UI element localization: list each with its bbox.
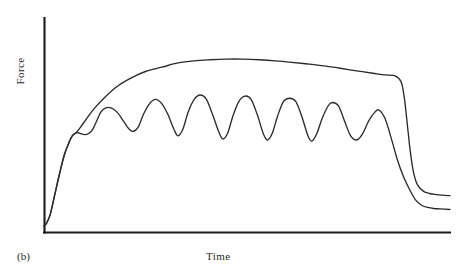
panel-label: (b) <box>17 250 30 262</box>
data-traces <box>44 59 450 226</box>
trace-fused-tetanus <box>44 59 450 226</box>
x-axis-label: Time <box>206 250 230 262</box>
figure-panel: Force Time (b) <box>0 0 463 275</box>
plot-axes <box>44 18 450 233</box>
y-axis-label: Force <box>14 41 26 101</box>
trace-unfused-tetanus <box>44 95 450 226</box>
force-time-plot <box>0 0 463 275</box>
